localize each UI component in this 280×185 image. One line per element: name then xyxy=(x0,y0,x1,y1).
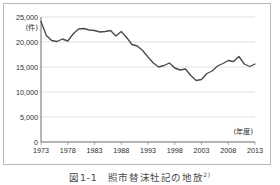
axes xyxy=(41,17,255,142)
y-tick-label-15000: 15,000 xyxy=(16,63,38,72)
data-series-line xyxy=(41,22,255,81)
figure-caption: 図1-1 照市替沫牡記の地放2) xyxy=(0,170,280,185)
x-tick-label-1978: 1978 xyxy=(60,146,76,155)
figure-container: 25,000 20,000 15,000 10,000 5,000 0 (件) … xyxy=(0,0,280,185)
y-tick-label-25000: 25,000 xyxy=(16,13,38,22)
y-axis-unit-label: (件) xyxy=(25,23,38,32)
x-tick-label-1983: 1983 xyxy=(87,146,103,155)
x-tick-label-1988: 1988 xyxy=(113,146,129,155)
y-axis-tick-labels: 25,000 20,000 15,000 10,000 5,000 0 xyxy=(16,13,38,147)
figure-caption-text: 図1-1 照市替沫牡記の地放 xyxy=(69,172,203,183)
gridlines xyxy=(41,17,255,117)
x-tick-label-2003: 2003 xyxy=(194,146,210,155)
x-axis-tick-labels: 1973 1978 1983 1988 1993 1998 2003 2008 … xyxy=(33,146,263,155)
x-tick-label-2013: 2013 xyxy=(247,146,263,155)
x-axis-unit-label: (年度) xyxy=(233,127,253,136)
y-tick-label-20000: 20,000 xyxy=(16,38,38,47)
y-tick-label-5000: 5,000 xyxy=(20,113,38,122)
line-chart: 25,000 20,000 15,000 10,000 5,000 0 (件) … xyxy=(3,3,271,165)
figure-caption-note: 2) xyxy=(203,171,210,178)
x-tick-label-1993: 1993 xyxy=(140,146,156,155)
x-tick-label-1973: 1973 xyxy=(33,146,49,155)
y-tick-label-10000: 10,000 xyxy=(16,88,38,97)
x-tick-label-1998: 1998 xyxy=(167,146,183,155)
x-tick-label-2008: 2008 xyxy=(220,146,236,155)
